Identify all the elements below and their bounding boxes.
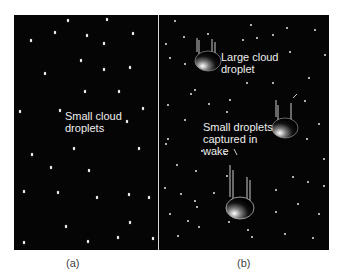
small-droplets-wake-label: Small droplets captured in wake	[203, 121, 273, 157]
large-droplet-label: Large cloud droplet	[221, 51, 279, 75]
caption-b: (b)	[237, 257, 250, 269]
diagram-frame: Small cloud droplets	[14, 15, 329, 250]
large-droplets-icon	[14, 15, 329, 250]
caption-a: (a)	[66, 257, 79, 269]
